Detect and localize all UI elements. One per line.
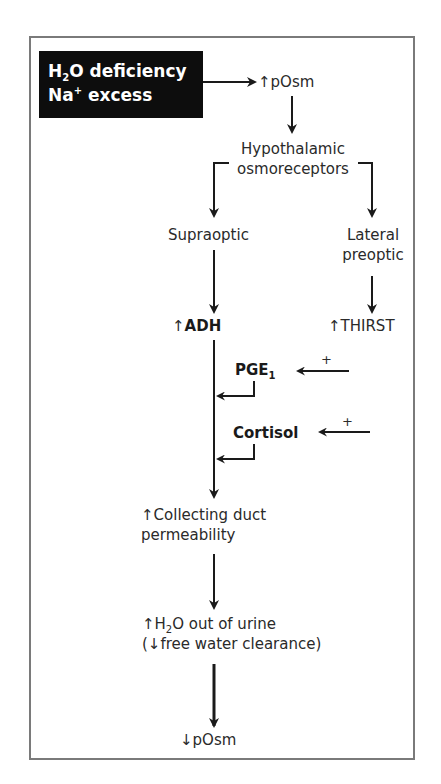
trigger-line-sodium: Na+ excess bbox=[48, 83, 203, 107]
node-pge1: PGE1 bbox=[235, 360, 276, 380]
trigger-box: H2O deficiency Na+ excess bbox=[39, 51, 203, 118]
node-thirst: ↑THIRST bbox=[328, 316, 395, 336]
node-adh: ↑ADH bbox=[172, 316, 221, 336]
arrow-hypothalamic-to-lateral bbox=[358, 163, 372, 216]
up-arrow-icon: ↑ bbox=[258, 73, 271, 91]
node-cortisol: Cortisol bbox=[233, 423, 298, 443]
up-arrow-icon: ↑ bbox=[328, 317, 341, 335]
arrow-pge-to-trunk bbox=[218, 381, 254, 396]
arrow-hypothalamic-to-supraoptic bbox=[214, 163, 229, 216]
node-posm-decrease: ↓pOsm bbox=[180, 730, 236, 750]
node-posm-increase: ↑pOsm bbox=[258, 72, 314, 92]
node-collecting-duct-permeability: ↑Collecting duct permeability bbox=[141, 505, 266, 545]
down-arrow-icon: ↓ bbox=[180, 731, 193, 749]
pge-stimulation-sign: + bbox=[321, 352, 332, 367]
up-arrow-icon: ↑ bbox=[172, 317, 185, 335]
cortisol-stimulation-sign: + bbox=[342, 414, 353, 429]
up-arrow-icon: ↑ bbox=[141, 506, 154, 524]
arrow-cortisol-to-trunk bbox=[218, 444, 254, 459]
node-lateral-preoptic: Lateral preoptic bbox=[338, 225, 408, 265]
up-arrow-icon: ↑ bbox=[142, 615, 155, 633]
node-supraoptic: Supraoptic bbox=[168, 225, 249, 245]
trigger-line-water: H2O deficiency bbox=[48, 59, 203, 83]
node-hypothalamic-osmoreceptors: Hypothalamic osmoreceptors bbox=[232, 139, 354, 179]
node-h2o-out-of-urine: ↑H2O out of urine (↓free water clearance… bbox=[142, 614, 321, 654]
